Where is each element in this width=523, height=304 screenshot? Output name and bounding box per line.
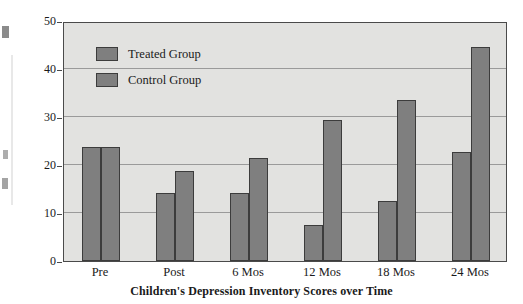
- bar-control[interactable]: [175, 171, 194, 261]
- bar-treated[interactable]: [304, 225, 323, 261]
- bar-treated[interactable]: [378, 201, 397, 261]
- bar-group: [378, 23, 416, 261]
- legend-swatch-treated-icon: [96, 47, 118, 61]
- chart-legend: Treated Group Control Group: [96, 41, 201, 93]
- y-axis-tick-mark: [57, 22, 62, 23]
- y-axis-tick-label: 10: [30, 206, 56, 221]
- bar-chart-figure: Percentage with CDI Scores of 15 or Abov…: [0, 0, 523, 304]
- x-axis-tick-label: 18 Mos: [361, 265, 431, 280]
- y-axis-tick-label: 0: [30, 254, 56, 269]
- y-axis-tick-label: 20: [30, 158, 56, 173]
- x-axis-tick-label: Pre: [65, 265, 135, 280]
- y-axis-tick-label: 40: [30, 62, 56, 77]
- bar-treated[interactable]: [452, 152, 471, 261]
- bar-treated[interactable]: [82, 147, 101, 261]
- bar-group: [452, 23, 490, 261]
- legend-item[interactable]: Treated Group: [96, 41, 201, 67]
- legend-label-control: Control Group: [128, 73, 201, 88]
- bar-group: [230, 23, 268, 261]
- y-axis-tick-mark: [57, 70, 62, 71]
- x-axis-tick-label: 6 Mos: [213, 265, 283, 280]
- gridline: [64, 212, 506, 213]
- x-axis-tick-label: 12 Mos: [287, 265, 357, 280]
- y-axis-tick-mark: [57, 262, 62, 263]
- bar-control[interactable]: [249, 158, 268, 261]
- y-axis-tick-mark: [57, 118, 62, 119]
- y-axis-tick-mark: [57, 166, 62, 167]
- x-axis-tick-label: Post: [139, 265, 209, 280]
- bar-group: [304, 23, 342, 261]
- y-axis-tick-labels: 01020304050: [28, 22, 56, 262]
- legend-item[interactable]: Control Group: [96, 67, 201, 93]
- bar-control[interactable]: [471, 47, 490, 261]
- bar-control[interactable]: [323, 120, 342, 261]
- bar-control[interactable]: [101, 147, 120, 261]
- plot-area: Treated Group Control Group: [63, 22, 507, 262]
- y-axis-tick-label: 50: [30, 14, 56, 29]
- x-axis-title: Children's Depression Inventory Scores o…: [0, 284, 523, 299]
- gridline: [64, 164, 506, 165]
- y-axis-tick-label: 30: [30, 110, 56, 125]
- x-axis-tick-label: 24 Mos: [435, 265, 505, 280]
- legend-label-treated: Treated Group: [128, 47, 201, 62]
- bar-treated[interactable]: [230, 193, 249, 261]
- bar-treated[interactable]: [156, 193, 175, 261]
- y-axis-tick-mark: [57, 214, 62, 215]
- legend-swatch-control-icon: [96, 73, 118, 87]
- gridline: [64, 116, 506, 117]
- bar-control[interactable]: [397, 100, 416, 261]
